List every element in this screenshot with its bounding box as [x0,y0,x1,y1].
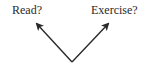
branching-arrows [0,0,149,70]
right-arrow-icon [72,24,108,62]
left-arrow-icon [37,24,72,62]
